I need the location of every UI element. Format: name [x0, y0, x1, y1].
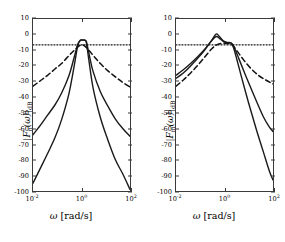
x-tick-mark [32, 188, 33, 192]
y-tick-mark [175, 176, 179, 177]
y-tick-mark-right [271, 112, 275, 113]
x-axis-label-left: ω [rad/s] [0, 210, 142, 221]
y-tick-mark-right [128, 65, 132, 66]
y-tick-mark [175, 128, 179, 129]
x-tick-mark-top [175, 18, 176, 22]
x-tick-mark [225, 188, 226, 192]
y-tick-mark-right [128, 49, 132, 50]
y-tick-label: -30 [3, 77, 29, 85]
y-tick-mark [175, 144, 179, 145]
y-tick-label: -80 [146, 156, 172, 164]
y-tick-label: 0 [146, 30, 172, 38]
plot-panel-left: |Fn(ω)|dB ω [rad/s] 100-10-20-30-40-50-6… [0, 0, 142, 242]
y-tick-label: -40 [3, 93, 29, 101]
y-tick-label: -90 [3, 172, 29, 180]
y-tick-mark [32, 144, 36, 145]
y-tick-mark [175, 65, 179, 66]
y-tick-mark [175, 112, 179, 113]
axes-frame-right [175, 18, 274, 192]
y-axis-label-symbol: F [165, 132, 175, 138]
x-tick-mark [131, 188, 132, 192]
y-tick-mark-right [271, 49, 275, 50]
series-dashed [33, 45, 130, 87]
x-tick-mark-top [32, 18, 33, 22]
y-tick-mark-right [128, 144, 132, 145]
x-tick-mark-top [274, 18, 275, 22]
y-tick-mark-right [271, 65, 275, 66]
x-axis-label-units: [rad/s] [61, 210, 93, 221]
y-tick-mark [32, 160, 36, 161]
y-tick-mark-right [271, 97, 275, 98]
y-tick-mark-right [271, 33, 275, 34]
x-tick-mark [274, 188, 275, 192]
curves-right [176, 19, 273, 191]
y-tick-mark-right [271, 176, 275, 177]
curves-left [33, 19, 130, 191]
y-tick-label: -70 [3, 141, 29, 149]
y-tick-label: 10 [3, 14, 29, 22]
y-tick-mark [175, 81, 179, 82]
y-tick-label: 0 [3, 30, 29, 38]
x-tick-label: 10-2 [25, 195, 38, 203]
y-tick-label: -50 [146, 109, 172, 117]
y-tick-mark [32, 128, 36, 129]
y-tick-mark [32, 81, 36, 82]
x-tick-label: 100 [219, 195, 230, 203]
x-axis-label-symbol: ω [50, 210, 58, 221]
y-tick-label: -60 [146, 125, 172, 133]
y-tick-label: -30 [146, 77, 172, 85]
y-tick-mark-right [128, 112, 132, 113]
y-tick-mark-right [128, 128, 132, 129]
y-tick-mark [175, 97, 179, 98]
y-tick-mark [175, 49, 179, 50]
y-tick-label: -90 [146, 172, 172, 180]
y-tick-label: -20 [3, 61, 29, 69]
x-tick-label: 100 [76, 195, 87, 203]
x-axis-label-units: [rad/s] [204, 210, 236, 221]
y-tick-mark-right [128, 160, 132, 161]
y-tick-label: -80 [3, 156, 29, 164]
x-axis-label-symbol: ω [193, 210, 201, 221]
y-tick-label: -20 [146, 61, 172, 69]
y-tick-mark [32, 65, 36, 66]
x-tick-label: 102 [268, 195, 279, 203]
y-tick-mark-right [271, 81, 275, 82]
x-axis-label-right: ω [rad/s] [143, 210, 285, 221]
y-tick-mark [32, 49, 36, 50]
x-tick-mark [82, 188, 83, 192]
x-tick-label: 10-2 [168, 195, 181, 203]
x-tick-mark-top [225, 18, 226, 22]
axes-frame-left [32, 18, 131, 192]
y-tick-mark [175, 33, 179, 34]
y-tick-label: 10 [146, 14, 172, 22]
y-tick-mark [32, 176, 36, 177]
series-solid [176, 36, 273, 131]
y-tick-mark [32, 112, 36, 113]
y-tick-mark-right [271, 128, 275, 129]
y-tick-mark-right [128, 81, 132, 82]
y-tick-mark-right [128, 97, 132, 98]
y-tick-label: -10 [3, 46, 29, 54]
y-tick-mark-right [128, 176, 132, 177]
y-tick-mark-right [128, 33, 132, 34]
y-tick-mark [32, 97, 36, 98]
y-tick-label: -10 [146, 46, 172, 54]
figure-canvas: |Fn(ω)|dB ω [rad/s] 100-10-20-30-40-50-6… [0, 0, 285, 242]
x-tick-mark-top [131, 18, 132, 22]
y-tick-label: -50 [3, 109, 29, 117]
y-tick-mark [32, 33, 36, 34]
y-tick-label: -60 [3, 125, 29, 133]
series-solid [33, 40, 130, 136]
y-tick-label: -70 [146, 141, 172, 149]
y-tick-mark-right [271, 160, 275, 161]
x-tick-label: 102 [125, 195, 136, 203]
plot-panel-right: |Fm(ω)|dB ω [rad/s] 100-10-20-30-40-50-6… [143, 0, 285, 242]
y-tick-mark [175, 160, 179, 161]
x-tick-mark-top [82, 18, 83, 22]
x-tick-mark [175, 188, 176, 192]
series-dashed [176, 43, 273, 86]
y-tick-mark-right [271, 144, 275, 145]
y-tick-label: -40 [146, 93, 172, 101]
